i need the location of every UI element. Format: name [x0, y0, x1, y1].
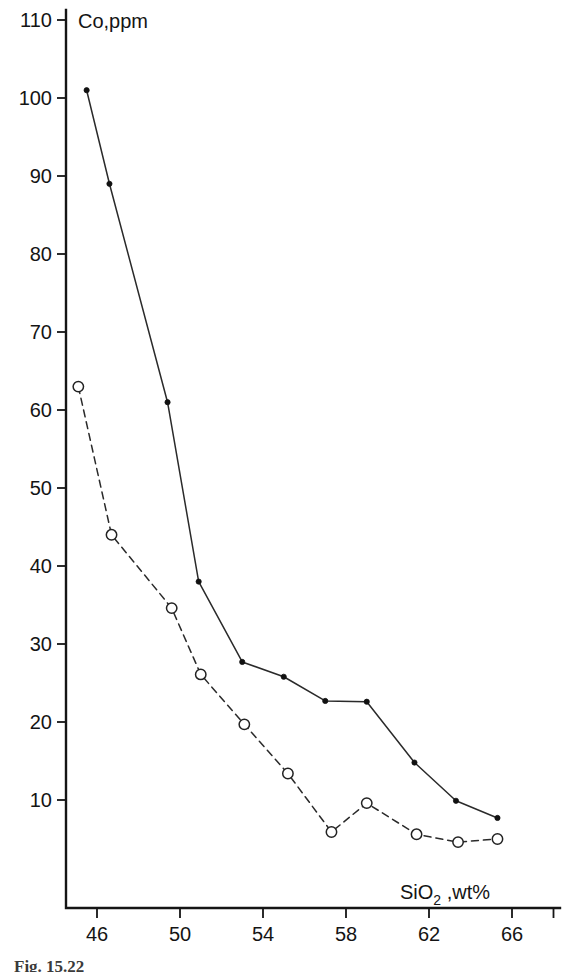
series-line-filled-circles [87, 90, 498, 818]
data-point-filled-circles [196, 579, 201, 584]
data-point-open-circles [411, 829, 421, 839]
data-point-filled-circles [240, 659, 245, 664]
y-axis-ticks: 102030405060708090100110 [19, 9, 66, 811]
x-axis-ticks: 465054586266 [86, 908, 554, 945]
data-point-open-circles [73, 381, 83, 391]
y-tick-label: 60 [30, 399, 52, 421]
y-tick-label: 80 [30, 243, 52, 265]
data-point-open-circles [362, 798, 372, 808]
data-point-filled-circles [412, 760, 417, 765]
data-point-filled-circles [453, 798, 458, 803]
data-point-open-circles [453, 837, 463, 847]
data-point-filled-circles [281, 674, 286, 679]
y-tick-label: 10 [30, 789, 52, 811]
data-point-open-circles [492, 834, 502, 844]
y-tick-label: 110 [20, 9, 52, 31]
data-point-open-circles [196, 669, 206, 679]
data-point-open-circles [239, 719, 249, 729]
data-point-open-circles [283, 768, 293, 778]
x-tick-label: 50 [169, 923, 191, 945]
data-point-filled-circles [495, 815, 500, 820]
data-point-filled-circles [165, 400, 170, 405]
y-tick-label: 30 [30, 633, 52, 655]
axis-lines [66, 10, 560, 908]
data-point-open-circles [106, 530, 116, 540]
data-point-filled-circles [107, 181, 112, 186]
x-tick-label: 62 [418, 923, 440, 945]
y-tick-label: 100 [19, 87, 52, 109]
x-tick-label: 46 [86, 923, 108, 945]
x-tick-label: 54 [252, 923, 274, 945]
y-tick-label: 90 [30, 165, 52, 187]
y-tick-label: 50 [30, 477, 52, 499]
data-point-filled-circles [364, 699, 369, 704]
y-axis-label: Co,ppm [78, 10, 148, 32]
axes [66, 10, 560, 908]
x-tick-label: 58 [335, 923, 357, 945]
data-point-filled-circles [323, 698, 328, 703]
data-point-open-circles [167, 603, 177, 613]
data-point-filled-circles [84, 88, 89, 93]
y-tick-label: 20 [30, 711, 52, 733]
y-tick-label: 70 [30, 321, 52, 343]
y-tick-label: 40 [30, 555, 52, 577]
data-point-open-circles [326, 827, 336, 837]
figure-caption: Fig. 15.22 [14, 958, 84, 972]
data-series [73, 88, 503, 848]
x-axis-label: SiO2 ,wt% [400, 881, 490, 908]
x-tick-label: 66 [501, 923, 523, 945]
